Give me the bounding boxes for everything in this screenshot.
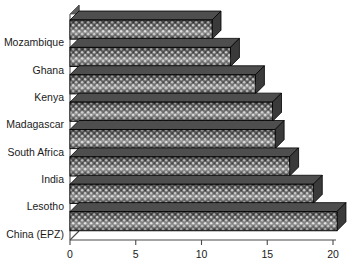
- bar-shading: [70, 75, 255, 94]
- x-tick-label: 15: [261, 248, 273, 260]
- bar-top-face: [70, 93, 282, 102]
- bar-group: [70, 203, 346, 231]
- bar-group: [70, 175, 322, 203]
- x-tick-label: 10: [196, 248, 208, 260]
- x-tick-label: 0: [67, 248, 73, 260]
- category-label: Kenya: [34, 91, 64, 103]
- category-label: China (EPZ): [6, 228, 64, 240]
- bar-top-face: [70, 11, 221, 20]
- bar-group: [70, 121, 284, 149]
- bar-chart: MozambiqueGhanaKenyaMadagascarSouth Afri…: [0, 0, 353, 274]
- bar-shading: [70, 212, 337, 231]
- bar-top-face: [70, 66, 264, 75]
- bar-group: [70, 148, 299, 176]
- category-label: Madagascar: [6, 118, 64, 130]
- category-label: South Africa: [7, 146, 64, 158]
- chart-canvas: MozambiqueGhanaKenyaMadagascarSouth Afri…: [0, 0, 353, 274]
- category-label: Mozambique: [4, 36, 64, 48]
- bar-shading: [70, 20, 212, 39]
- bar-top-face: [70, 148, 299, 157]
- bar-top-face: [70, 175, 322, 184]
- bar-group: [70, 93, 282, 121]
- x-tick-label: 20: [327, 248, 339, 260]
- bar-group: [70, 11, 221, 39]
- bar-shading: [70, 47, 230, 66]
- bar-shading: [70, 184, 313, 203]
- category-label: India: [41, 173, 64, 185]
- bar-shading: [70, 157, 290, 176]
- bar-group: [70, 66, 264, 94]
- category-label: Ghana: [32, 64, 64, 76]
- x-tick-label: 5: [133, 248, 139, 260]
- bar-top-face: [70, 121, 284, 130]
- bar-group: [70, 38, 239, 66]
- bar-shading: [70, 102, 273, 121]
- category-label: Lesotho: [27, 200, 65, 212]
- bar-top-face: [70, 38, 239, 47]
- bar-shading: [70, 130, 275, 149]
- bar-top-face: [70, 203, 346, 212]
